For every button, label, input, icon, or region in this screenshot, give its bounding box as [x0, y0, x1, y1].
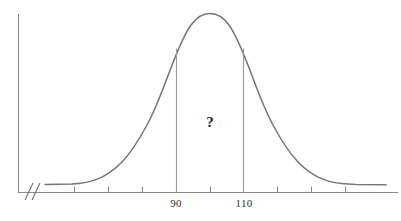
normal-distribution-figure: 90 110 ?	[0, 0, 401, 221]
x-axis-ticks	[75, 187, 346, 193]
chart-canvas	[0, 0, 401, 221]
x-tick-label-110: 110	[236, 197, 253, 209]
unknown-area-question-mark: ?	[206, 114, 214, 131]
x-tick-label-90: 90	[170, 197, 182, 209]
normal-distribution-curve	[45, 14, 386, 185]
axis-break-icon	[25, 183, 40, 200]
